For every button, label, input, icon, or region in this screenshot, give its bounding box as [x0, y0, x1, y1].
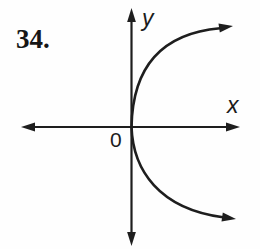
x-axis-label: x — [227, 94, 239, 117]
coordinate-plane — [0, 0, 260, 249]
parabola-upper-arrow-icon — [219, 24, 234, 33]
y-axis-bottom-arrow-icon — [127, 232, 136, 246]
origin-label: 0 — [110, 129, 122, 150]
textbook-figure: 34. y x 0 — [0, 0, 260, 249]
y-axis-label: y — [142, 7, 154, 30]
x-axis-right-arrow-icon — [226, 123, 240, 132]
parabola-lower-arrow-icon — [222, 213, 237, 222]
parabola-upper-branch — [132, 28, 221, 127]
x-axis-left-arrow-icon — [21, 123, 35, 132]
parabola-lower-branch — [132, 127, 224, 217]
y-axis-top-arrow-icon — [127, 8, 136, 22]
